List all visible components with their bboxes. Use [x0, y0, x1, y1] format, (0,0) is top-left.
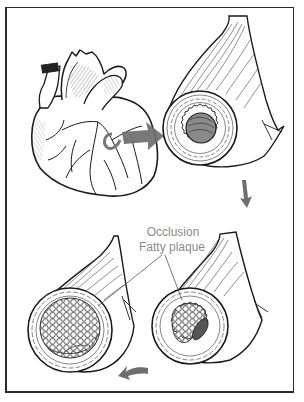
heart-illustration — [32, 50, 158, 196]
illustration — [0, 0, 304, 402]
arrow-left-icon — [118, 366, 148, 380]
healthy-artery-illustration — [163, 16, 284, 167]
arrow-down-icon — [240, 180, 252, 208]
occluded-artery-illustration — [28, 236, 136, 372]
occlusion-label: Occlusion — [140, 225, 206, 239]
fatty-plaque-label: Fatty plaque — [132, 240, 212, 254]
